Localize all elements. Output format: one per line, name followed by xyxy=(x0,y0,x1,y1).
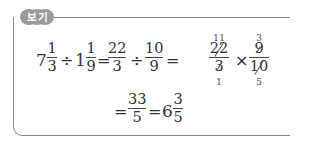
example-box-top-border xyxy=(50,17,290,18)
example-label-badge: 보기 xyxy=(20,9,54,25)
mixed1-fraction: 1 3 xyxy=(47,41,57,74)
struck-denominator-10: 10 xyxy=(250,59,268,74)
equals-sign-2: = xyxy=(166,53,179,69)
struck-numerator-22: 22 xyxy=(210,41,228,56)
fraction-10-9: 10 9 xyxy=(145,41,163,74)
multiply-sign: × xyxy=(235,53,248,69)
reduced-denominator-1: 1 xyxy=(213,77,225,87)
equals-sign-4: = xyxy=(148,104,161,120)
fraction-22-3: 22 3 xyxy=(108,41,126,74)
mixed1-whole: 7 xyxy=(36,52,47,69)
divide-sign-1: ÷ xyxy=(60,53,73,69)
struck-denominator-3: 3 xyxy=(214,59,223,74)
fraction-33-5: 33 5 xyxy=(128,92,146,125)
result-whole: 6 xyxy=(162,103,173,120)
struck-numerator-9: 9 xyxy=(254,41,263,56)
equals-sign-3: = xyxy=(114,104,127,120)
divide-sign-2: ÷ xyxy=(130,53,143,69)
mixed2-whole: 1 xyxy=(75,52,86,69)
reduced-denominator-5: 5 xyxy=(253,77,265,87)
example-label: 보기 xyxy=(23,9,53,25)
cancelled-fraction-22-3: 22 3 xyxy=(209,41,229,74)
mixed2-fraction: 1 9 xyxy=(86,41,96,74)
cancelled-fraction-9-10: 9 10 xyxy=(249,41,269,74)
result-fraction: 3 5 xyxy=(173,92,183,125)
